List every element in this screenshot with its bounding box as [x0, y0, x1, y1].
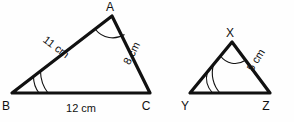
- vertex-label-x: X: [226, 26, 234, 40]
- angle-arc-y-inner: [207, 72, 213, 94]
- angle-arc-y-outer: [212, 65, 220, 94]
- vertex-label-b: B: [2, 99, 10, 113]
- side-label-ab: 11 cm: [41, 33, 71, 60]
- vertex-label-a: A: [106, 0, 114, 14]
- triangle-abc: A B C 11 cm 8 cm 12 cm: [2, 0, 151, 114]
- angle-arc-b-inner: [34, 77, 40, 93]
- vertex-label-y: Y: [181, 99, 189, 113]
- angle-arc-b-outer: [41, 72, 49, 94]
- geometry-figure: A B C 11 cm 8 cm 12 cm X Y Z 5 cm: [0, 0, 294, 122]
- vertex-label-c: C: [142, 99, 151, 113]
- side-label-xz: 5 cm: [244, 47, 267, 74]
- side-label-bc: 12 cm: [66, 102, 96, 114]
- side-label-ac: 8 cm: [121, 40, 143, 67]
- triangles-canvas: A B C 11 cm 8 cm 12 cm X Y Z 5 cm: [0, 0, 294, 122]
- vertex-label-z: Z: [262, 99, 269, 113]
- triangle-xyz: X Y Z 5 cm: [181, 26, 270, 113]
